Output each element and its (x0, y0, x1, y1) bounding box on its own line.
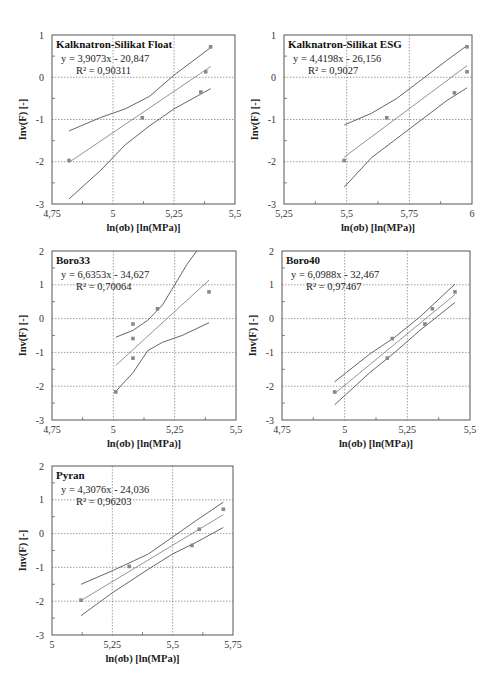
y-tick-label: -2 (268, 156, 276, 167)
lower-confidence-band (116, 323, 209, 392)
data-point (207, 290, 211, 294)
y-axis-label: Inv(F) [-] (249, 99, 261, 141)
y-tick-label: -2 (266, 381, 274, 392)
x-tick-label: 5 (111, 208, 116, 219)
x-tick-label: 4,75 (273, 424, 291, 435)
y-tick-label: 0 (271, 72, 276, 83)
data-point (342, 159, 346, 163)
x-tick-label: 5,25 (165, 208, 183, 219)
data-point (423, 322, 427, 326)
data-point (114, 390, 118, 394)
chart-title: Boro40 (286, 254, 321, 266)
lower-confidence-band (69, 89, 211, 199)
data-point (197, 527, 201, 531)
x-tick-label: 5 (111, 424, 116, 435)
x-tick-label: 4,75 (43, 424, 61, 435)
r-squared: R² = 0,9027 (308, 65, 358, 76)
x-tick-label: 5,5 (464, 424, 477, 435)
y-tick-label: 0 (39, 313, 44, 324)
chart-panel-4: 55,255,55,75-3-2-1012ln(σb) [ln(MPa)]Inv… (17, 461, 242, 666)
y-axis-label: Inv(F) [-] (17, 530, 29, 572)
x-axis-label: ln(σb) [ln(MPa)] (105, 653, 179, 665)
y-tick-label: -3 (36, 415, 44, 426)
chart-panel-2: 4,7555,255,5-3-2-1012ln(σb) [ln(MPa)]Inv… (17, 246, 242, 451)
data-point (333, 390, 337, 394)
x-tick-label: 5 (50, 639, 55, 650)
data-point (453, 290, 457, 294)
data-point (140, 116, 144, 120)
x-axis-label: ln(σb) [ln(MPa)] (106, 222, 180, 234)
y-tick-label: -2 (36, 381, 44, 392)
x-tick-label: 5,75 (224, 639, 242, 650)
chart-panel-0: 4,7555,255,5-3-2-101ln(σb) [ln(MPa)]Inv(… (17, 30, 241, 235)
x-tick-label: 5 (342, 424, 347, 435)
data-point (127, 565, 131, 569)
chart-panel-1: 5,255,55,756-3-2-101ln(σb) [ln(MPa)]Inv(… (249, 30, 475, 235)
chart-title: Pyran (56, 469, 85, 481)
lower-confidence-band (81, 528, 223, 616)
upper-confidence-band (335, 284, 455, 382)
data-point (131, 322, 135, 326)
data-point (131, 337, 135, 341)
y-axis-label: Inv(F) [-] (17, 315, 29, 357)
upper-confidence-band (116, 251, 197, 337)
regression-line (335, 295, 455, 394)
data-point (385, 116, 389, 120)
data-point (79, 598, 83, 602)
r-squared: R² = 0,97467 (306, 281, 361, 292)
data-point (199, 90, 203, 94)
chart-title: Kalknatron-Silikat ESG (288, 38, 402, 50)
y-tick-label: -3 (266, 415, 274, 426)
x-axis-label: ln(σb) [ln(MPa)] (107, 438, 181, 450)
data-point (222, 507, 226, 511)
r-squared: R² = 0,70064 (76, 281, 132, 292)
y-tick-label: 0 (39, 72, 44, 83)
x-tick-label: 5,5 (229, 208, 242, 219)
y-tick-label: 0 (269, 313, 274, 324)
y-tick-label: 2 (39, 246, 44, 257)
data-point (431, 307, 435, 311)
y-tick-label: 0 (39, 528, 44, 539)
x-tick-label: 5,5 (340, 208, 353, 219)
regression-equation: y = 4,3076x - 24,036 (61, 484, 149, 495)
y-tick-label: -1 (268, 114, 276, 125)
data-point (453, 91, 457, 95)
chart-canvas: 4,7555,255,5-3-2-101ln(σb) [ln(MPa)]Inv(… (0, 0, 497, 681)
x-axis-label: ln(σb) [ln(MPa)] (341, 222, 415, 234)
y-tick-label: 2 (269, 246, 274, 257)
data-point (131, 356, 135, 360)
data-point (156, 307, 160, 311)
y-tick-label: -2 (36, 596, 44, 607)
regression-line (344, 66, 467, 158)
y-tick-label: -1 (36, 562, 44, 573)
data-point (190, 544, 194, 548)
r-squared: R² = 0,90311 (76, 65, 131, 76)
data-point (67, 159, 71, 163)
data-point (465, 70, 469, 74)
y-tick-label: 2 (39, 461, 44, 472)
x-axis-label: ln(σb) [ln(MPa)] (339, 438, 413, 450)
x-tick-label: 5,25 (104, 639, 122, 650)
y-tick-label: -3 (36, 630, 44, 641)
y-tick-label: -1 (266, 347, 274, 358)
data-point (465, 45, 469, 49)
y-tick-label: 1 (269, 279, 274, 290)
x-tick-label: 4,75 (43, 208, 61, 219)
x-tick-label: 6 (470, 208, 475, 219)
data-point (209, 45, 213, 49)
x-tick-label: 5,25 (399, 424, 417, 435)
regression-line (81, 515, 223, 601)
regression-equation: y = 6,6353x - 34,627 (61, 269, 149, 280)
regression-equation: y = 4,4198x - 26,156 (293, 53, 381, 64)
chart-title: Kalknatron-Silikat Float (56, 38, 173, 50)
y-tick-label: -3 (36, 199, 44, 210)
regression-line (69, 67, 211, 163)
regression-equation: y = 3,9073x - 20,847 (61, 53, 149, 64)
x-tick-label: 5,25 (166, 424, 184, 435)
y-tick-label: 1 (39, 30, 44, 41)
data-point (390, 337, 394, 341)
data-point (385, 356, 389, 360)
x-tick-label: 5,5 (230, 424, 243, 435)
y-tick-label: 1 (271, 30, 276, 41)
regression-line (116, 280, 209, 365)
